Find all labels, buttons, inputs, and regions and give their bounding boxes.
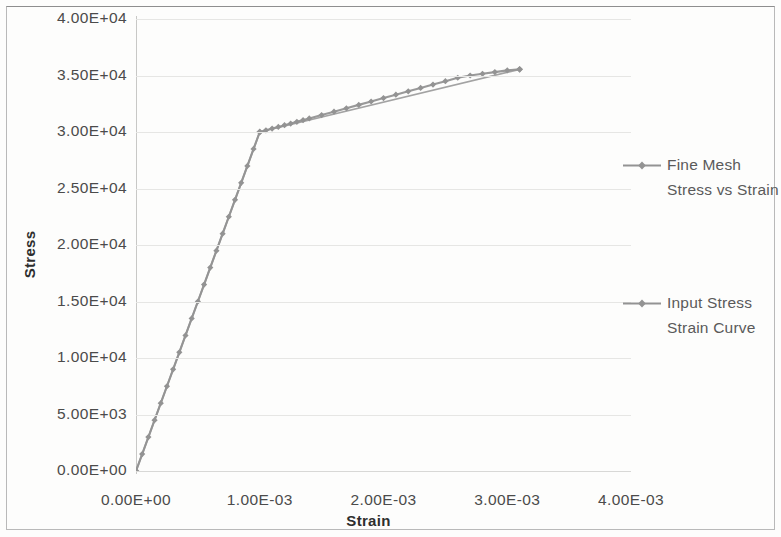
series-line <box>136 69 520 471</box>
y-axis-tick-labels: 0.00E+005.00E+031.00E+041.50E+042.00E+04… <box>0 0 127 537</box>
plot-area <box>136 19 631 471</box>
y-tick-label: 3.00E+04 <box>57 122 127 140</box>
data-point-marker <box>430 81 436 87</box>
series-2 <box>136 66 523 471</box>
y-tick-label: 5.00E+03 <box>57 405 127 423</box>
y-tick-label: 1.00E+04 <box>57 348 127 366</box>
gridline-y <box>136 358 631 359</box>
data-point-marker <box>516 66 523 73</box>
legend-marker-icon <box>622 160 662 171</box>
data-point-marker <box>368 98 374 104</box>
chart-legend: Fine Mesh Stress vs StrainInput Stress S… <box>622 152 781 340</box>
x-tick-label: 1.00E-03 <box>227 491 293 509</box>
x-tick-label: 2.00E-03 <box>350 491 416 509</box>
gridline-y <box>136 189 631 190</box>
series-line <box>136 69 520 471</box>
legend-label: Fine Mesh Stress vs Strain <box>667 152 781 202</box>
series-1 <box>136 66 523 471</box>
legend-entry[interactable]: Input Stress Strain Curve <box>622 290 781 340</box>
y-tick-label: 0.00E+00 <box>57 461 127 479</box>
legend-label: Input Stress Strain Curve <box>667 290 781 340</box>
gridline-y <box>136 76 631 77</box>
data-point-marker <box>405 88 411 94</box>
y-tick-label: 2.00E+04 <box>57 235 127 253</box>
x-tick-label: 4.00E-03 <box>598 491 664 509</box>
data-point-marker <box>418 85 424 91</box>
gridline-y <box>136 19 631 20</box>
y-tick-label: 2.50E+04 <box>57 179 127 197</box>
gridline-y <box>136 245 631 246</box>
y-tick-label: 3.50E+04 <box>57 66 127 84</box>
chart-figure: 0.00E+005.00E+031.00E+041.50E+042.00E+04… <box>0 0 781 537</box>
legend-entry[interactable]: Fine Mesh Stress vs Strain <box>622 152 781 202</box>
data-point-marker <box>393 92 399 98</box>
y-tick-label: 4.00E+04 <box>57 9 127 27</box>
y-axis-title: Stress <box>21 215 38 295</box>
gridline-y <box>136 415 631 416</box>
x-tick-label: 0.00E+00 <box>101 491 171 509</box>
gridline-y <box>136 132 631 133</box>
x-axis-title: Strain <box>0 512 737 529</box>
y-tick-label: 1.50E+04 <box>57 292 127 310</box>
data-point-marker <box>442 78 448 84</box>
gridline-y <box>136 471 631 472</box>
gridline-y <box>136 302 631 303</box>
x-tick-label: 3.00E-03 <box>474 491 540 509</box>
legend-marker-icon <box>622 298 662 309</box>
data-point-marker <box>380 95 386 101</box>
